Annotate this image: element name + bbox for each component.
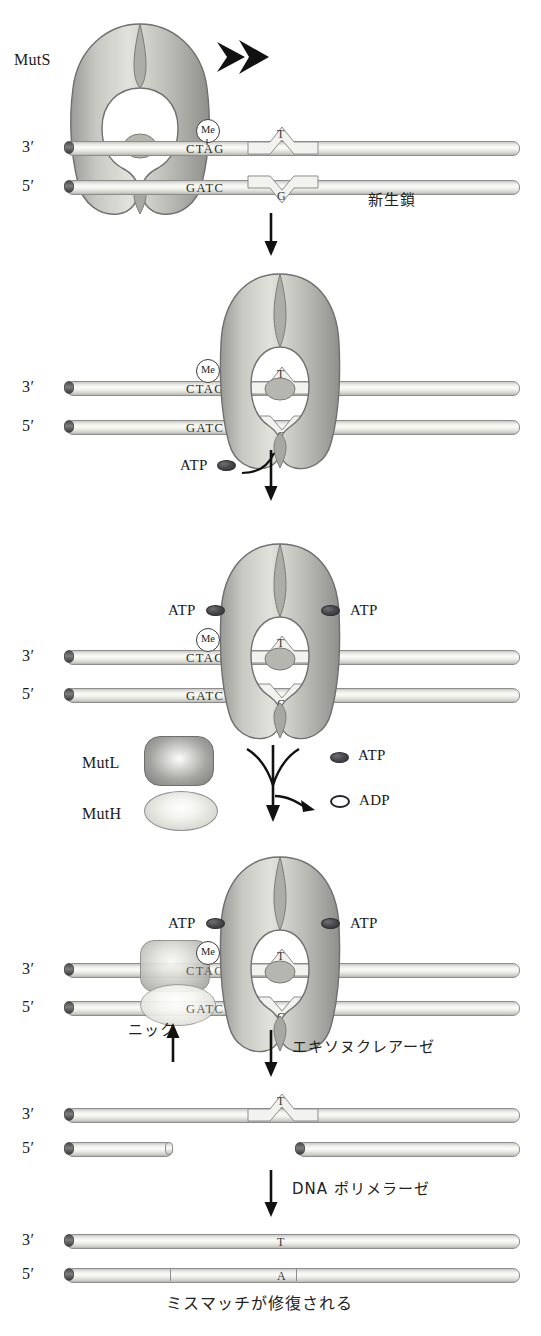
five-prime-label-p3: 5′ — [22, 686, 35, 702]
five-prime-label-p6: 5′ — [22, 1266, 35, 1282]
step-arrow-2-to-3 — [262, 450, 280, 502]
nascent-strand-label: 新生鎖 — [368, 193, 416, 208]
three-prime-label-p2: 3′ — [22, 379, 35, 395]
dna-bottom-cap-p2 — [64, 420, 74, 433]
atp-label-left-p4: ATP — [168, 916, 196, 931]
repair-patch-junction-right — [296, 1268, 297, 1281]
atp-bound-left-p3 — [206, 605, 225, 616]
top-sequence-p1: CTAG — [186, 143, 225, 156]
dna-bottom-cap-p4 — [64, 1001, 74, 1014]
five-prime-label-p1: 5′ — [22, 178, 35, 194]
repaired-base-top-p6: T — [277, 1236, 284, 1248]
three-prime-label-p1: 3′ — [22, 139, 35, 155]
five-prime-label-p5: 5′ — [22, 1140, 35, 1156]
panel-1: MutS 3′ T 5′ G Me — [0, 0, 541, 240]
repair-patch-junction-left — [170, 1268, 171, 1281]
five-prime-label-p2: 5′ — [22, 418, 35, 434]
mismatch-base-bottom-p1: G — [277, 190, 286, 202]
atp-legend-label: ATP — [358, 748, 386, 763]
dna-top-cap-p6 — [64, 1234, 74, 1247]
dna-bottom-break-left-p5 — [165, 1142, 173, 1155]
mutl-legend-label: MutL — [82, 755, 120, 771]
mismatch-base-top-p1: T — [277, 128, 284, 140]
dna-bottom-cap-p3 — [64, 688, 74, 701]
scan-direction-arrow — [215, 36, 275, 78]
diagram-caption: ミスマッチが修復される — [166, 1296, 353, 1312]
mismatch-base-top-p5: T — [277, 1095, 284, 1107]
mutl-legend-shape — [144, 736, 214, 786]
three-prime-label-p6: 3′ — [22, 1232, 35, 1248]
step-arrow-1-to-2 — [262, 213, 280, 257]
muts-protein-panel-3 — [215, 539, 345, 744]
dna-bottom-strand-p6 — [66, 1268, 520, 1283]
dna-bottom-strand-right-p5 — [297, 1142, 520, 1157]
atp-label-left-p3: ATP — [168, 603, 196, 618]
five-prime-label-p4: 5′ — [22, 999, 35, 1015]
panel-6: 3′ T 5′ A — [0, 1228, 541, 1298]
dna-bottom-cap-p1 — [64, 180, 74, 193]
dna-polymerase-label: DNA ポリメラーゼ — [292, 1182, 430, 1197]
atp-bound-right-p3 — [321, 605, 340, 616]
step-arrow-4-to-5 — [262, 1030, 280, 1078]
adp-legend-glyph — [330, 795, 350, 808]
dna-top-cap-p4 — [64, 963, 74, 976]
panel-5: 3′ T 5′ — [0, 1085, 541, 1170]
dna-top-cap-p2 — [64, 381, 74, 394]
dna-bottom-cap-p6 — [64, 1268, 74, 1281]
dna-bottom-cap-left-p5 — [64, 1142, 74, 1155]
muth-legend-label: MutH — [82, 806, 121, 822]
dna-top-cap-p5 — [64, 1108, 74, 1121]
nick-label: ニック — [128, 1023, 176, 1038]
three-prime-label-p4: 3′ — [22, 961, 35, 977]
atp-label-right-p3: ATP — [350, 603, 378, 618]
muts-protein-panel-2 — [215, 269, 345, 474]
step-arrow-5-to-6 — [262, 1170, 280, 1218]
dna-top-strand-p6 — [66, 1234, 520, 1249]
dna-bottom-strand-left-p5 — [66, 1142, 173, 1157]
atp-label-right-p4: ATP — [350, 916, 378, 931]
atp-legend-glyph — [330, 752, 349, 763]
three-prime-label-p3: 3′ — [22, 648, 35, 664]
dna-top-cap-p3 — [64, 650, 74, 663]
atp-molecule-p2 — [217, 460, 236, 471]
three-prime-label-p5: 3′ — [22, 1106, 35, 1122]
atp-incoming-label-p2: ATP — [180, 458, 208, 473]
adp-legend-label: ADP — [359, 793, 390, 808]
atp-bound-right-p4 — [321, 918, 340, 929]
atp-bound-left-p4 — [206, 918, 225, 929]
bottom-sequence-p1: GATC — [186, 182, 224, 195]
muts-label: MutS — [14, 52, 51, 68]
exonuclease-label: エキソヌクレアーゼ — [292, 1040, 435, 1055]
muts-protein-panel-4 — [215, 852, 345, 1057]
repaired-base-bottom-p6: A — [277, 1270, 286, 1282]
adp-release-arrow — [273, 790, 321, 816]
dna-bottom-break-right-p5 — [295, 1142, 305, 1155]
dna-top-cap-p1 — [64, 141, 74, 154]
muth-legend-shape — [144, 791, 218, 831]
mismatch-repair-diagram: MutS 3′ T 5′ G Me — [0, 0, 541, 1336]
